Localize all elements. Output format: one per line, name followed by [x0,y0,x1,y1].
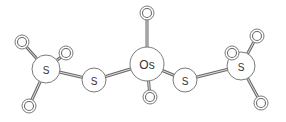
atom-os1: Os [130,47,164,81]
atom-label: Os [139,58,154,72]
atom-label: S [91,76,98,87]
atom-o3 [15,35,29,49]
atom-s3: S [32,55,60,83]
atom-o5 [22,99,36,113]
atom-o7 [250,29,264,43]
atom-o6 [225,46,239,60]
atom-s2: S [173,68,197,92]
atom-s1: S [82,68,106,92]
atoms-layer: OsSSSS [15,6,268,113]
atom-label: S [182,76,189,87]
atom-o2 [143,90,157,104]
atom-o4 [59,46,73,60]
atom-o1 [140,6,154,20]
atom-label: S [43,65,50,76]
molecule-diagram: OsSSSS [0,0,286,122]
atom-o8 [254,96,268,110]
atom-label: S [238,62,245,73]
